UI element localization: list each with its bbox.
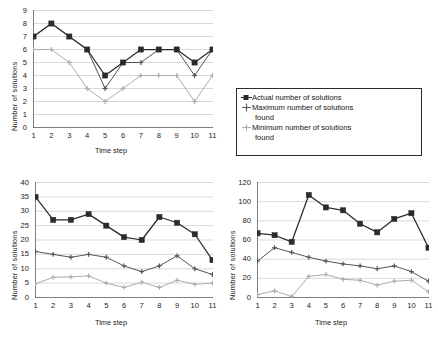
data-point-marker [86,212,91,217]
data-point-marker [257,231,260,236]
legend-label-actual: Actual number of solutions [252,93,418,102]
y-tick-label: 25 [2,222,32,230]
x-tick-label: 5 [104,302,108,310]
y-tick-label: 2 [2,98,30,106]
x-tick-label: 7 [139,132,143,140]
x-tick-label: 1 [255,302,259,310]
data-point-marker [157,214,162,219]
y-tick-label: 10 [2,265,32,273]
plot-area-bottom-right [257,182,429,298]
series-0 [257,192,429,250]
data-point-marker [175,220,180,225]
data-point-marker [192,232,197,237]
y-tick-label: 15 [2,251,32,259]
data-point-marker [358,221,363,226]
x-tick-label: 3 [290,302,294,310]
x-tick-label: 8 [375,302,379,310]
x-tick-label: 3 [69,302,73,310]
x-tick-label: 9 [175,132,179,140]
chart-panel-bottom-left: Number of solutions 0510152025303540 123… [2,178,220,338]
y-tick-label: 40 [2,179,32,187]
y-ticks-bottom-right: 020406080100120 [220,182,254,298]
data-point-marker [103,73,108,78]
x-tick-label: 4 [307,302,311,310]
y-tick-label: 6 [2,46,30,54]
x-tick-label: 4 [85,132,89,140]
y-tick-label: 20 [220,275,254,283]
y-tick-label: 0 [2,124,30,132]
y-tick-label: 30 [2,207,32,215]
y-tick-label: 20 [2,236,32,244]
y-ticks-top: 0123456789 [2,10,30,128]
legend-label-minimum-cont: found [241,133,418,142]
x-tick-label: 2 [49,132,53,140]
x-axis-label-bottom-right: Time step [236,318,426,327]
data-point-marker [392,216,397,221]
x-tick-label: 6 [341,302,345,310]
x-tick-label: 10 [407,302,415,310]
y-tick-label: 8 [2,20,30,28]
x-tick-label: 6 [122,302,126,310]
y-tick-label: 40 [220,255,254,263]
data-point-marker [139,237,144,242]
series-1 [35,249,213,277]
series-2 [257,272,429,298]
y-tick-label: 0 [220,294,254,302]
y-tick-label: 3 [2,85,30,93]
data-point-marker [121,235,126,240]
data-point-marker [85,47,90,52]
x-tick-label: 5 [324,302,328,310]
legend-item-actual: Actual number of solutions [241,93,418,102]
x-tick-label: 1 [31,132,35,140]
y-tick-label: 7 [2,33,30,41]
filled-square-marker-icon [241,93,252,102]
chart-panel-top: Number of solutions 0123456789 123456789… [2,6,220,168]
x-tick-label: 7 [140,302,144,310]
plot-svg-top [33,10,213,128]
x-tick-label: 6 [121,132,125,140]
series-2 [35,274,213,290]
y-tick-label: 100 [220,198,254,206]
x-tick-label: 2 [51,302,55,310]
y-tick-label: 5 [2,279,32,287]
plot-area-bottom-left [35,182,213,298]
x-tick-label: 8 [157,132,161,140]
plot-svg-bottom-right [257,182,429,298]
x-tick-label: 11 [209,132,217,140]
series-line [36,252,213,275]
y-tick-label: 5 [2,59,30,67]
y-tick-label: 35 [2,193,32,201]
chart-panel-bottom-right: Number of solutions 020406080100120 1234… [216,178,438,338]
x-tick-label: 2 [272,302,276,310]
data-point-marker [340,208,345,213]
data-point-marker [104,223,109,228]
legend-label-maximum-cont: found [241,113,418,122]
x-tick-label: 9 [175,302,179,310]
data-point-marker [49,21,54,26]
data-point-marker [272,233,277,238]
data-point-marker [67,34,72,39]
x-ticks-bottom-left: 1234567891011 [35,301,213,313]
cross-marker-icon [241,103,252,112]
x-axis-label-top: Time step [2,146,220,155]
data-point-marker [426,245,429,250]
x-tick-label: 5 [103,132,107,140]
x-tick-label: 10 [190,132,198,140]
data-point-marker [409,211,414,216]
series-0 [35,194,213,262]
data-point-marker [289,239,294,244]
x-tick-label: 9 [392,302,396,310]
x-tick-label: 11 [425,302,433,310]
legend-label-minimum: Minimum number of solutions [252,123,418,132]
x-ticks-top: 1234567891011 [33,131,213,143]
data-point-marker [174,47,179,52]
cross-marker-light-icon [241,123,252,132]
y-ticks-bottom-left: 0510152025303540 [2,182,32,298]
data-point-marker [323,205,328,210]
x-ticks-bottom-right: 1234567891011 [257,301,429,313]
x-axis-label-bottom-left: Time step [2,318,220,327]
plot-area-top [33,10,213,128]
legend-item-minimum: Minimum number of solutions [241,123,418,132]
legend-box: Actual number of solutions Maximum numbe… [236,88,422,156]
data-point-marker [210,47,213,52]
